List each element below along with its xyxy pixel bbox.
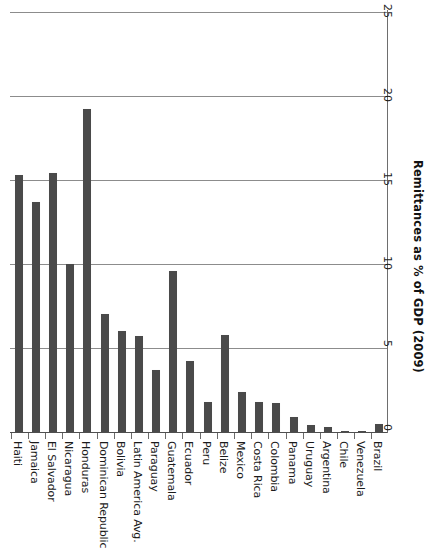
category-label: Bolivia <box>115 441 126 477</box>
bar <box>341 431 349 432</box>
category-label: Honduras <box>80 441 91 493</box>
category-label: Nicaragua <box>63 441 74 496</box>
category-tick <box>79 433 80 439</box>
bar <box>204 402 212 432</box>
category-label: Paraguay <box>149 441 160 492</box>
category-label: Ecuador <box>183 441 194 485</box>
value-tick-label: 10 <box>382 256 393 270</box>
category-tick <box>200 433 201 439</box>
category-tick <box>62 433 63 439</box>
category-label: Belize <box>218 441 229 473</box>
category-label: Peru <box>201 441 212 465</box>
bar <box>118 331 126 432</box>
bar <box>32 202 40 432</box>
bar <box>49 173 57 432</box>
bar <box>272 403 280 432</box>
category-label: Guatemala <box>166 441 177 501</box>
category-tick <box>28 433 29 439</box>
bar <box>255 402 263 432</box>
bar <box>15 175 23 432</box>
bar <box>152 370 160 432</box>
category-tick <box>337 433 338 439</box>
bar-chart: HaitiJamaicaEl SalvadorNicaraguaHonduras… <box>0 0 445 555</box>
category-label: Mexico <box>235 441 246 479</box>
value-tick-label: 25 <box>382 4 393 18</box>
bar <box>135 336 143 432</box>
category-label: Haiti <box>12 441 23 466</box>
value-tick-label: 0 <box>382 424 393 431</box>
category-tick <box>354 433 355 439</box>
category-label: Latin America Avg. <box>132 441 143 543</box>
category-axis-labels: HaitiJamaicaEl SalvadorNicaraguaHonduras… <box>10 441 388 551</box>
category-tick <box>320 433 321 439</box>
category-label: Costa Rica <box>252 441 263 498</box>
bar <box>169 271 177 432</box>
category-label: Brazil <box>372 441 383 471</box>
category-tick <box>303 433 304 439</box>
category-label: Colombia <box>269 441 280 492</box>
category-tick <box>182 433 183 439</box>
category-tick <box>251 433 252 439</box>
bar <box>238 392 246 432</box>
bar <box>324 427 332 432</box>
category-tick <box>371 433 372 439</box>
category-tick <box>217 433 218 439</box>
category-label: Venezuela <box>355 441 366 497</box>
category-tick <box>11 433 12 439</box>
bar <box>66 264 74 432</box>
category-label: Dominican Republic <box>98 441 109 548</box>
category-label: El Salvador <box>46 441 57 502</box>
bar <box>221 335 229 432</box>
value-tick-label: 20 <box>382 88 393 102</box>
category-tick <box>286 433 287 439</box>
category-tick <box>268 433 269 439</box>
value-axis-title: Remittances as % of GDP (2009) <box>412 160 424 373</box>
category-label: Chile <box>338 441 349 468</box>
category-tick <box>114 433 115 439</box>
bar <box>358 431 366 432</box>
category-tick-marks <box>10 433 388 440</box>
category-label: Panama <box>287 441 298 484</box>
plot-area <box>10 10 388 433</box>
category-label: Jamaica <box>29 441 40 484</box>
bar <box>290 417 298 432</box>
category-label: Argentina <box>321 441 332 494</box>
category-tick <box>45 433 46 439</box>
category-label: Uruguay <box>304 441 315 487</box>
category-tick <box>97 433 98 439</box>
value-tick-label: 15 <box>382 172 393 186</box>
category-tick <box>148 433 149 439</box>
bar <box>186 361 194 432</box>
category-tick <box>234 433 235 439</box>
value-tick-label: 5 <box>382 340 393 347</box>
category-tick <box>131 433 132 439</box>
bar <box>101 314 109 432</box>
bars-group <box>10 10 388 433</box>
category-tick <box>165 433 166 439</box>
bar <box>83 109 91 432</box>
bar <box>307 425 315 432</box>
